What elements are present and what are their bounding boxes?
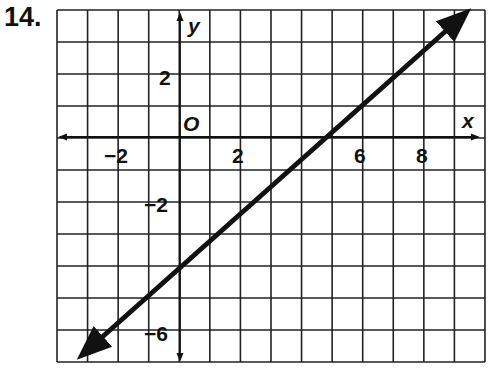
y-axis-label: y (187, 14, 201, 37)
coordinate-plane: y x O −2 2 6 8 2 −2 −6 (0, 0, 491, 378)
data-line (82, 13, 466, 355)
y-tick-label: −6 (144, 322, 168, 345)
y-tick-label: −2 (144, 193, 168, 216)
x-tick-label: 6 (354, 144, 366, 167)
x-tick-label: 2 (232, 144, 244, 167)
y-tick-label: 2 (159, 66, 171, 89)
x-axis-label: x (461, 109, 475, 132)
x-tick-label: −2 (104, 144, 128, 167)
x-tick-label: 8 (416, 144, 428, 167)
origin-label: O (183, 112, 199, 135)
